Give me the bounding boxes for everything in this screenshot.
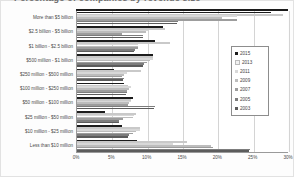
y-axis-category-label: $100 million - $250 million [20, 86, 73, 92]
bar-group [77, 125, 288, 139]
legend-item[interactable]: 2009 [235, 76, 266, 85]
legend-label: 2003 [240, 106, 250, 111]
y-axis-category-label: $500 million - $1 billion [26, 58, 73, 64]
y-axis-category-label: More than $5 billion [33, 15, 73, 21]
legend-item[interactable]: 2011 [235, 67, 266, 76]
legend-item[interactable]: 2007 [235, 85, 266, 94]
bar-chart: Percentage of companies by revenue size … [0, 0, 294, 177]
legend-swatch-icon [235, 60, 240, 65]
legend-label: 2009 [240, 78, 250, 83]
bar [77, 94, 126, 96]
x-axis-tick-label: 5% [108, 155, 115, 160]
legend-swatch-icon [235, 88, 238, 91]
chart-legend: 2015201320112009200720052003 [231, 46, 269, 116]
legend-item[interactable]: 2013 [235, 58, 266, 67]
legend-label: 2005 [240, 97, 250, 102]
legend-swatch-icon [235, 79, 238, 82]
legend-swatch-icon [235, 98, 238, 101]
legend-item[interactable]: 2003 [235, 104, 266, 113]
bar-group [77, 11, 288, 25]
bar [77, 122, 119, 124]
y-axis-category-label: Less than $10 million [30, 143, 73, 149]
legend-label: 2015 [240, 51, 250, 56]
bar [77, 150, 249, 152]
bar [77, 23, 177, 25]
chart-title: Percentage of companies by revenue size [14, 0, 200, 3]
y-axis-category-label: $250 million - $500 million [20, 72, 73, 78]
bar [77, 51, 134, 53]
legend-label: 2013 [242, 60, 252, 65]
y-axis-category-label: $1 billion - $2.5 billion [29, 44, 73, 50]
x-axis-tick-label: 30% [283, 155, 292, 160]
legend-swatch-icon [235, 52, 238, 55]
bar [77, 108, 154, 110]
chart-title-strip: Percentage of companies by revenue size [0, 0, 294, 9]
gridline [289, 11, 290, 152]
legend-swatch-icon [235, 70, 238, 73]
bar [77, 136, 128, 138]
x-axis-tick-label: 25% [248, 155, 257, 160]
bar [77, 65, 143, 67]
x-axis-tick-label: 20% [213, 155, 222, 160]
x-axis-tick-label: 10% [142, 155, 151, 160]
y-axis-category-label: $50 million - $100 million [22, 100, 73, 106]
bar [77, 37, 143, 39]
legend-label: 2011 [240, 69, 250, 74]
y-axis-category-label: $2.5 billion - $5 billion [29, 29, 73, 35]
bar-group [77, 139, 288, 153]
x-axis-tick-label: 15% [177, 155, 186, 160]
legend-item[interactable]: 2015 [235, 49, 266, 58]
legend-label: 2007 [240, 87, 250, 92]
y-axis-category-label: $10 million - $25 million [25, 129, 73, 135]
legend-swatch-icon [235, 107, 238, 110]
x-axis-tick-label: 0% [73, 155, 80, 160]
bar [77, 79, 123, 81]
y-axis-category-label: $25 million - $50 million [25, 115, 73, 121]
legend-item[interactable]: 2005 [235, 94, 266, 103]
bar-group [77, 25, 288, 39]
